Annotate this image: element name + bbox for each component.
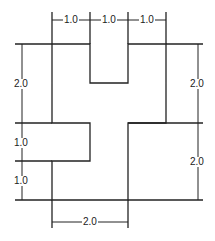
dim-left-upper: 2.0 bbox=[13, 79, 29, 89]
dim-right-upper: 2.0 bbox=[189, 79, 205, 89]
dim-top-right: 1.0 bbox=[139, 15, 155, 25]
shape-drawing bbox=[0, 0, 215, 241]
dim-top-left: 1.0 bbox=[63, 15, 79, 25]
dim-left-lower: 1.0 bbox=[13, 176, 29, 186]
dim-bottom: 2.0 bbox=[82, 217, 98, 227]
dim-right-lower: 2.0 bbox=[189, 157, 205, 167]
shape-outline bbox=[52, 44, 166, 200]
dim-top-middle: 1.0 bbox=[101, 15, 117, 25]
dim-left-middle: 1.0 bbox=[13, 138, 29, 148]
